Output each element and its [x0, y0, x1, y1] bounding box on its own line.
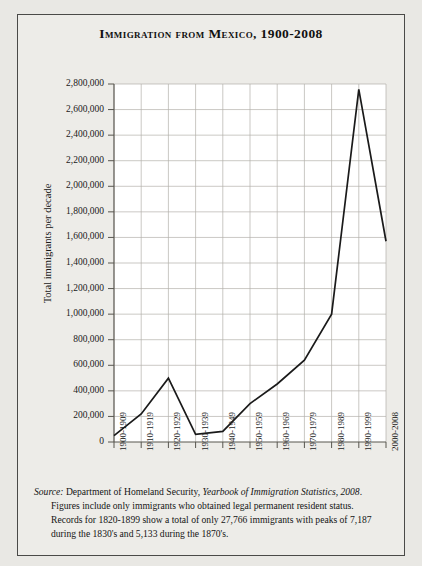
x-tick-label: 1900-1909 [118, 412, 128, 451]
source-label: Source: [34, 486, 63, 497]
y-tick-label: 800,000 [18, 334, 104, 344]
x-tick-label: 2000-2008 [390, 412, 400, 451]
y-tick-label: 600,000 [18, 359, 104, 369]
source-text-1: Department of Homeland Security, [63, 486, 202, 497]
y-tick-label: 2,800,000 [18, 78, 104, 88]
y-tick-label: 2,600,000 [18, 104, 104, 114]
x-tick-label: 1950-1959 [254, 412, 264, 451]
x-tick-label: 1920-1929 [172, 412, 182, 451]
y-tick-label: 2,000,000 [18, 180, 104, 190]
x-tick-label: 1930-1939 [200, 412, 210, 451]
y-tick-label: 1,800,000 [18, 206, 104, 216]
y-tick-label: 1,400,000 [18, 257, 104, 267]
figure-container: Immigration from Mexico, 1900-2008 Total… [17, 14, 405, 556]
plot-area: Total immigrants per decade 0200,000400,… [18, 42, 406, 462]
x-tick-label: 1990-1999 [363, 412, 373, 451]
x-tick-label: 1980-1989 [336, 412, 346, 451]
y-tick-label: 1,200,000 [18, 283, 104, 293]
y-tick-label: 0 [18, 436, 104, 446]
x-tick-label: 1970-1979 [308, 412, 318, 451]
y-tick-label: 1,000,000 [18, 308, 104, 318]
source-publication: Yearbook of Immigration Statistics, 2008 [202, 486, 359, 497]
y-tick-label: 200,000 [18, 410, 104, 420]
y-tick-label: 2,400,000 [18, 129, 104, 139]
x-tick-label: 1940-1949 [227, 412, 237, 451]
y-tick-label: 1,600,000 [18, 231, 104, 241]
source-note: Source: Department of Homeland Security,… [34, 485, 386, 541]
y-tick-label: 2,200,000 [18, 155, 104, 165]
chart-title: Immigration from Mexico, 1900-2008 [18, 26, 404, 42]
y-tick-label: 400,000 [18, 385, 104, 395]
x-tick-label: 1910-1919 [145, 412, 155, 451]
x-tick-label: 1960-1969 [281, 412, 291, 451]
